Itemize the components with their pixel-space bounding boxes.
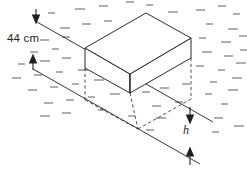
diagram-canvas bbox=[0, 0, 247, 169]
height-label: h bbox=[183, 124, 189, 136]
height-arrow-bottom-head bbox=[187, 148, 194, 156]
hidden-edge-center-vertical bbox=[130, 93, 138, 129]
depth-arrow-top-head bbox=[33, 15, 40, 23]
rectangular-block bbox=[85, 13, 191, 93]
height-arrow-top-head bbox=[187, 115, 194, 123]
depth-arrow-bottom-head bbox=[30, 55, 37, 63]
figure-container: 44 cm h bbox=[0, 0, 247, 169]
depth-label: 44 cm bbox=[7, 33, 39, 45]
